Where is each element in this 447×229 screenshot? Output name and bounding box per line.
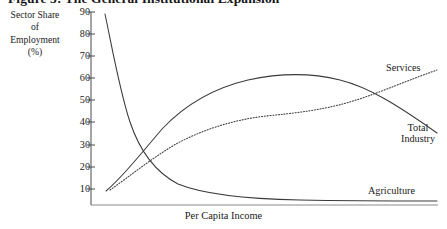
figure-container: Figure 3: The General Institutional Expa… [0, 0, 447, 229]
series-label-services: Services [386, 62, 421, 73]
series-label-total-industry: Total Industry [392, 122, 444, 145]
series-line-agriculture [105, 14, 437, 201]
series-label-total-industry-line-2: Industry [392, 133, 444, 144]
series-line-services [110, 70, 437, 190]
series-line-total-industry [106, 75, 437, 191]
series-label-agriculture: Agriculture [368, 185, 415, 196]
series-label-total-industry-line-1: Total [392, 122, 444, 133]
x-axis-title: Per Capita Income [0, 210, 447, 221]
